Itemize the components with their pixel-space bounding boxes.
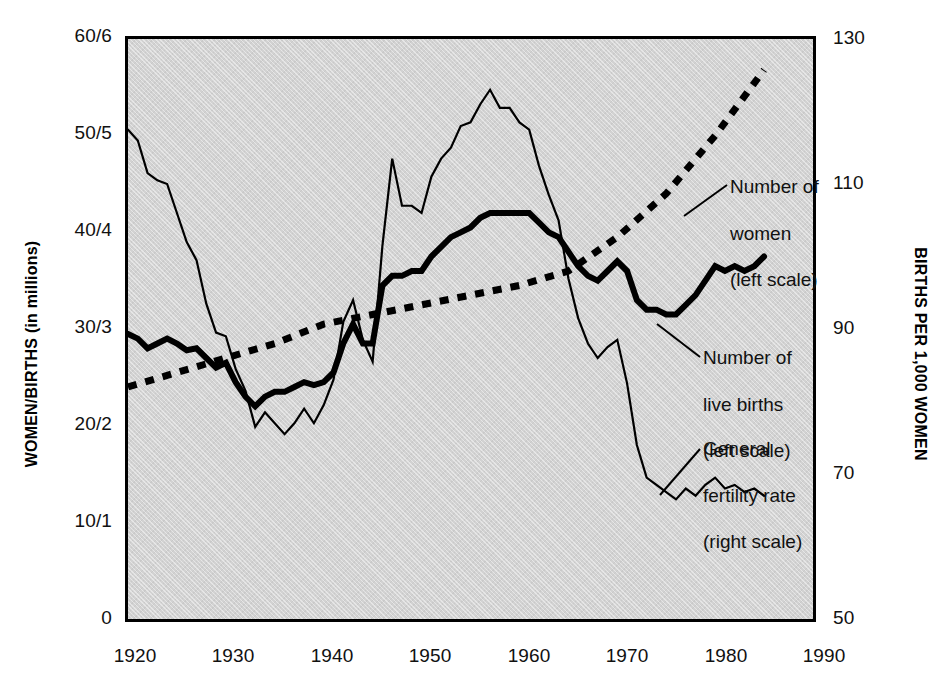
annotation-births-line1: Number of	[703, 346, 792, 369]
x-tick-1930: 1930	[212, 645, 255, 667]
y-tick-left-10: 10/1	[20, 510, 112, 532]
series-line-women	[128, 70, 764, 387]
y-tick-right-50: 50	[833, 607, 854, 629]
series-line-live-births	[128, 213, 764, 406]
series-line-fertility-rate	[128, 90, 764, 500]
y-tick-left-40: 40/4	[20, 219, 112, 241]
x-tick-1990: 1990	[803, 645, 846, 667]
chart-root: WOMEN/BIRTHS (in millions) BIRTHS PER 1,…	[0, 0, 931, 691]
annotation-women-line3: (left scale)	[730, 268, 819, 291]
y-tick-left-30: 30/3	[20, 316, 112, 338]
annotation-fertility-line1: General	[703, 437, 802, 460]
x-tick-1920: 1920	[114, 645, 157, 667]
y-tick-right-70: 70	[833, 462, 854, 484]
y-axis-title-right: BIRTHS PER 1,000 WOMEN	[911, 204, 929, 504]
annotation-fertility: General fertility rate (right scale)	[703, 414, 802, 576]
annotation-women-line2: women	[730, 222, 819, 245]
y-tick-left-20: 20/2	[20, 413, 112, 435]
x-tick-1970: 1970	[606, 645, 649, 667]
y-tick-right-90: 90	[833, 317, 854, 339]
annotation-births-line2: live births	[703, 393, 792, 416]
annotation-women: Number of women (left scale)	[730, 152, 819, 314]
y-tick-left-50: 50/5	[20, 122, 112, 144]
x-tick-1940: 1940	[311, 645, 354, 667]
annotation-fertility-line2: fertility rate	[703, 484, 802, 507]
x-tick-1980: 1980	[705, 645, 748, 667]
x-tick-1960: 1960	[508, 645, 551, 667]
annotation-fertility-line3: (right scale)	[703, 530, 802, 553]
y-tick-left-60: 60/6	[20, 25, 112, 47]
y-tick-right-110: 110	[833, 172, 864, 194]
y-tick-left-0: 0	[20, 607, 112, 629]
y-axis-title-left: WOMEN/BIRTHS (in millions)	[23, 204, 41, 504]
x-tick-1950: 1950	[409, 645, 452, 667]
annotation-women-line1: Number of	[730, 175, 819, 198]
y-tick-right-130: 130	[833, 27, 865, 49]
